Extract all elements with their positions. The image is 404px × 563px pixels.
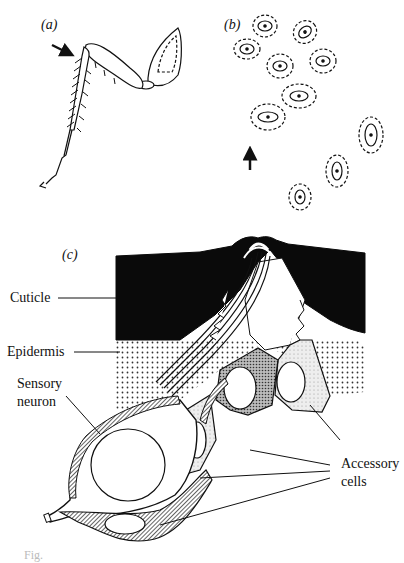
accessory-cells-label-line1: Accessory: [341, 456, 399, 472]
epidermis-label: Epidermis: [7, 344, 65, 360]
panel-a-label: (a): [41, 17, 57, 33]
sensory-neuron-label-line2: neuron: [17, 394, 56, 410]
panel-c-label: (c): [62, 247, 78, 263]
accessory-cells-label-line2: cells: [341, 474, 367, 490]
panel-b-label: (b): [224, 17, 240, 33]
cuticle-label: Cuticle: [10, 290, 50, 306]
campaniform-sensilla-field: [234, 15, 383, 210]
sensory-neuron-label-line1: Sensory: [17, 376, 62, 392]
figure-caption: Fig.: [24, 548, 43, 563]
insect-leg-drawing: [40, 28, 181, 188]
arrow-a-icon: [52, 45, 68, 53]
cuticle-layer: [116, 237, 365, 340]
